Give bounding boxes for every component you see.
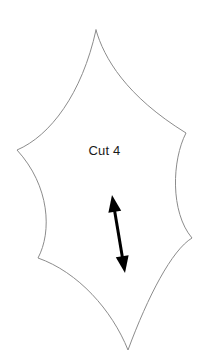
piece-cut-label: Cut 4	[0, 143, 209, 159]
pattern-outline-path	[17, 30, 192, 350]
pattern-piece-svg	[0, 0, 209, 361]
pattern-diagram-canvas: Cut 4	[0, 0, 209, 361]
